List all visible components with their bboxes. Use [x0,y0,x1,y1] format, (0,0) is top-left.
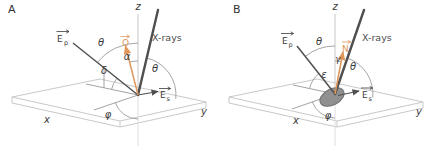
ep-vector-hat-icon [281,32,294,35]
theta-polar-arc [305,46,335,56]
theta-polar-label: θ [98,37,104,48]
theta-polar-label: θ [316,36,322,47]
delta-arc [112,78,117,89]
incidence-theta-label: θ [350,61,356,72]
x-axis-label: x [43,114,50,125]
es-label-subscript: s [167,95,171,103]
z-axis-label: z [331,1,338,12]
in-plane-azimuth-line [94,95,138,110]
tilted-molecular-disk [317,84,347,110]
z-axis-label: z [134,1,141,12]
alpha-label: α [124,51,131,62]
delta-label: δ [101,65,107,76]
phi-label: φ [325,110,332,121]
gamma-label: γ [335,54,341,64]
epsilon-arc [310,74,319,89]
es-label: E [160,90,166,100]
phi-arc [115,103,138,119]
xrays-label: X-rays [362,32,392,43]
normal-vector-label: N [342,44,349,54]
es-label-subscript: s [369,95,373,103]
panel-a-label: A [8,3,16,16]
alpha-arc [129,61,138,62]
incidence-theta-label: θ [152,63,158,74]
xrays-label: X-rays [152,32,182,43]
orbital-vector-label: O [122,38,129,48]
ep-label: E [57,34,63,44]
xray-beam-line [138,10,158,95]
ep-label: E [282,36,288,46]
es-vector-arrow [138,92,158,96]
panel-a: A z x y X-rays θ α δ θ φ E p E s O [0,0,216,151]
es-label: E [362,90,368,100]
panel-b: B z x y X-rays θ γ ε θ φ E p E s N [216,0,433,151]
two-panel-xray-geometry-figure: A z x y X-rays θ α δ θ φ E p E s O [0,0,433,151]
panel-b-label: B [233,3,241,16]
x-axis-label: x [292,115,299,126]
xray-beam-line [335,10,364,94]
ep-label-subscript: p [64,39,68,47]
phi-label: φ [105,109,112,120]
y-axis-label: y [200,106,208,117]
ep-vector-hat-icon [57,30,70,33]
y-axis-label: y [415,106,423,117]
epsilon-label: ε [321,69,327,80]
ep-label-subscript: p [289,41,293,49]
